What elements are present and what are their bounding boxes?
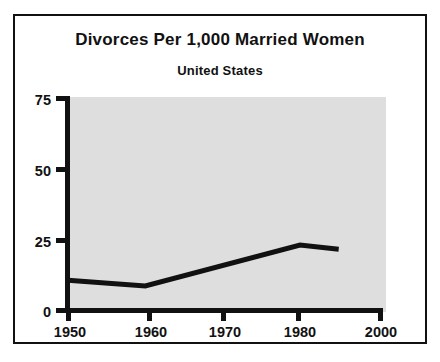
plot-area: 75 50 25 0 1950 1960 1970 1980 2000	[15, 16, 429, 346]
chart-card: Divorces Per 1,000 Married Women United …	[13, 14, 427, 344]
plot-background	[69, 97, 386, 312]
x-tick-label-2000: 2000	[365, 324, 397, 340]
y-tick-mark	[56, 308, 66, 313]
y-tick-mark	[56, 96, 66, 101]
x-tick-label-1960: 1960	[135, 324, 167, 340]
y-tick-label-0: 0	[43, 304, 51, 320]
y-axis-ticks	[56, 96, 66, 313]
x-tick-label-1970: 1970	[209, 324, 241, 340]
y-tick-mark	[56, 167, 66, 172]
x-tick-mark	[147, 312, 152, 321]
y-tick-label-75: 75	[35, 92, 51, 108]
x-tick-label-1980: 1980	[284, 324, 316, 340]
y-tick-mark	[56, 238, 66, 243]
y-tick-label-25: 25	[35, 234, 51, 250]
x-tick-mark	[66, 308, 71, 321]
x-tick-mark	[221, 312, 226, 321]
x-tick-mark	[378, 308, 383, 321]
x-tick-label-1950: 1950	[54, 324, 86, 340]
y-tick-label-50: 50	[35, 163, 51, 179]
x-tick-mark	[296, 312, 301, 321]
line-chart-svg: 75 50 25 0 1950 1960 1970 1980 2000	[15, 16, 429, 346]
